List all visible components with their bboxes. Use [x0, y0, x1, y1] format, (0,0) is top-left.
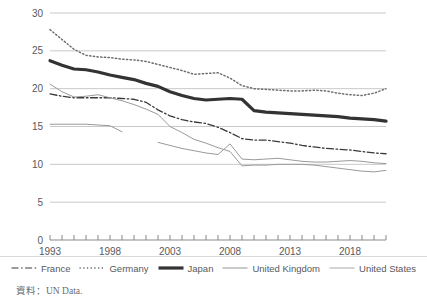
series-line-united-kingdom	[158, 142, 386, 163]
series-line-france	[50, 94, 386, 154]
legend-swatch-solid	[222, 263, 248, 273]
legend-swatch-dotted	[79, 263, 105, 273]
legend-item-germany[interactable]: Germany	[79, 263, 148, 274]
chart-figure: 051015202530 199319982003200820132018 Fr…	[0, 0, 427, 304]
legend-top-rule	[0, 256, 427, 257]
figure-top-rule	[0, 0, 427, 1]
x-axis-tick-labels: 199319982003200820132018	[39, 246, 362, 256]
x-axis-tick-label: 2008	[219, 246, 242, 256]
legend-item-united-kingdom[interactable]: United Kingdom	[222, 263, 320, 274]
y-axis-tick-label: 0	[37, 235, 43, 246]
legend-swatch-solid	[158, 263, 184, 273]
y-axis-tick-label: 10	[32, 159, 44, 170]
legend-label: Japan	[188, 263, 214, 274]
legend-item-france[interactable]: France	[11, 263, 71, 274]
x-axis-tick-label: 1998	[99, 246, 122, 256]
series-line-united-states	[50, 124, 122, 132]
y-axis-tick-labels: 051015202530	[32, 8, 44, 246]
legend-label: United Kingdom	[252, 263, 320, 274]
legend-label: United States	[359, 263, 416, 274]
x-axis-tick-label: 2003	[159, 246, 182, 256]
gridlines	[50, 13, 386, 240]
line-chart-plot: 051015202530 199319982003200820132018	[0, 0, 427, 256]
x-axis-tick-label: 1993	[39, 246, 62, 256]
y-axis-tick-label: 15	[32, 121, 44, 132]
legend-label: France	[41, 263, 71, 274]
y-axis-tick-label: 5	[37, 197, 43, 208]
y-axis-tick-label: 30	[32, 8, 44, 19]
series-line-germany	[50, 30, 386, 96]
legend-item-united-states[interactable]: United States	[329, 263, 416, 274]
legend-swatch-solid	[329, 263, 355, 273]
legend-swatch-dash-dot	[11, 263, 37, 273]
legend-label: Germany	[109, 263, 148, 274]
chart-legend: FranceGermanyJapanUnited KingdomUnited S…	[0, 258, 427, 278]
x-axis-tick-label: 2018	[339, 246, 362, 256]
source-note: 資料：UN Data.	[16, 283, 82, 297]
series-line-japan	[50, 61, 386, 122]
y-axis-tick-label: 25	[32, 45, 44, 56]
x-axis-tick-marks	[50, 235, 386, 240]
legend-item-japan[interactable]: Japan	[158, 263, 214, 274]
x-axis-tick-label: 2013	[279, 246, 302, 256]
y-axis-tick-label: 20	[32, 83, 44, 94]
